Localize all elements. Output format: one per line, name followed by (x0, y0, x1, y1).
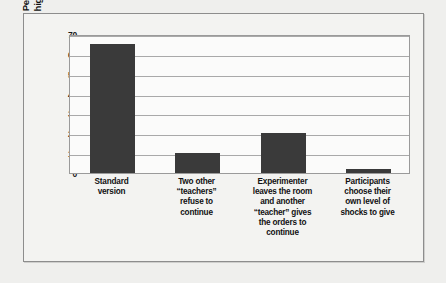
x-axis-category-labels: Standard versionTwo other “teachers” ref… (69, 177, 410, 257)
x-axis-category-label: Participants choose their own level of s… (325, 177, 410, 218)
bar (346, 169, 391, 173)
x-axis-category-label: Two other “teachers” refuse to continue (154, 177, 239, 218)
y-axis-title: Percentage giving the highest level of s… (20, 0, 42, 34)
x-axis-category-label: Experimenter leaves the room and another… (240, 177, 325, 238)
bar (90, 44, 135, 173)
plot-area (69, 35, 410, 174)
gridline (70, 36, 409, 37)
bar-chart: Percentage giving the highest level of s… (24, 14, 425, 263)
figure-frame: Percentage giving the highest level of s… (23, 13, 424, 262)
bar (261, 133, 306, 173)
x-axis-category-label: Standard version (69, 177, 154, 197)
bar (175, 153, 220, 173)
